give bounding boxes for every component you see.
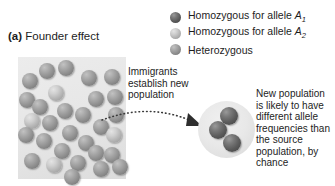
individual-sphere [24, 153, 40, 169]
individual-sphere [81, 70, 97, 86]
individual-sphere [75, 107, 91, 123]
figure-label-tag: (a) [8, 30, 22, 42]
figure-title-text: Founder effect [25, 30, 99, 42]
individual-sphere [42, 115, 58, 131]
individual-sphere [22, 73, 38, 89]
allele-symbol: A [295, 9, 302, 21]
legend-item-heterozygous: Heterozygous [170, 42, 335, 57]
individual-sphere [58, 60, 74, 76]
migration-caption-line-1: Immigrants [128, 66, 189, 78]
individual-sphere [18, 127, 34, 143]
legend-label-homozygous-a1: Homozygous for allele A1 [188, 9, 306, 26]
migration-arrow [98, 100, 210, 140]
migration-caption-line-2: establish new [128, 78, 189, 90]
individual-sphere [46, 157, 62, 173]
individual-sphere [104, 69, 120, 85]
migration-arrow-line [102, 111, 194, 122]
individual-sphere [93, 161, 109, 177]
outcome-caption: New population is likely to have differe… [256, 88, 334, 169]
legend-label-heterozygous: Heterozygous [188, 44, 253, 56]
figure-panel: (a) Founder effect Homozygous for allele… [0, 0, 335, 186]
new-population-spheres [198, 101, 255, 158]
allele-subscript: 1 [302, 15, 306, 24]
page-title: (a) Founder effect [8, 30, 99, 42]
sphere-dark-icon [170, 12, 181, 23]
new-population-circle [198, 101, 255, 158]
individual-sphere [64, 169, 80, 185]
allele-subscript: 2 [302, 31, 306, 40]
sphere-mid-icon [170, 44, 181, 55]
individual-sphere [223, 134, 241, 152]
individual-sphere [57, 103, 73, 119]
individual-sphere [39, 63, 55, 79]
sphere-light-icon [170, 28, 181, 39]
individual-sphere [88, 145, 104, 161]
legend-item-homozygous-a1: Homozygous for allele A1 [170, 10, 335, 25]
individual-sphere [36, 133, 52, 149]
individual-sphere [62, 125, 78, 141]
allele-symbol: A [295, 25, 302, 37]
individual-sphere [48, 85, 64, 101]
migration-caption-line-3: population [128, 89, 189, 101]
legend-item-homozygous-a2: Homozygous for allele A2 [170, 26, 335, 41]
legend-label-homozygous-a2: Homozygous for allele A2 [188, 25, 306, 42]
legend: Homozygous for allele A1 Homozygous for … [170, 10, 335, 58]
individual-sphere [112, 159, 128, 175]
migration-caption: Immigrants establish new population [128, 66, 189, 101]
